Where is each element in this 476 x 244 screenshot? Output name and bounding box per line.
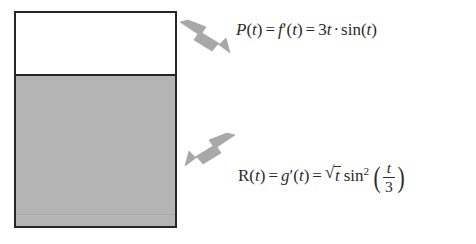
fraction-group: (t3) [372,160,406,195]
tank-container [14,11,177,228]
fraction-numerator: t [385,160,393,176]
tank-filled-region [16,74,175,226]
outflow-fn-symbol: g [281,166,290,185]
equals-2: = [309,166,325,185]
tank-empty-region [16,13,175,74]
paren-close-2: ) [297,20,303,39]
outflow-arrow-shape [185,133,235,166]
outflow-equation: R(t)=g′(t)=√tsin2(t3) [238,160,406,195]
paren-close-3: ) [371,20,377,39]
fraction-denominator: 3 [383,179,395,195]
fraction: t3 [383,160,395,195]
radicand: t [334,166,341,184]
outflow-lhs-symbol: R [238,166,249,185]
fill-level-line [16,214,175,215]
radical-sign: √ [325,164,335,181]
trig-exponent: 2 [363,165,369,177]
outflow-trig-fn: sin [344,166,364,185]
square-root: √t [325,165,341,184]
outflow-arrow [183,133,237,169]
inflow-arrow [178,20,232,56]
equals-2: = [303,20,319,39]
multiplication-dot: · [331,20,341,39]
inflow-arrow-shape [180,20,230,53]
inflow-equation: P(t)=f′(t)=3t·sin(t) [236,21,377,38]
equals-1: = [265,166,281,185]
equals-1: = [262,20,278,39]
big-paren-close: ) [397,165,404,190]
inflow-coefficient: 3 [318,20,327,39]
big-paren-open: ( [373,165,380,190]
inflow-lhs-symbol: P [236,20,246,39]
inflow-trig-fn: sin [341,20,361,39]
